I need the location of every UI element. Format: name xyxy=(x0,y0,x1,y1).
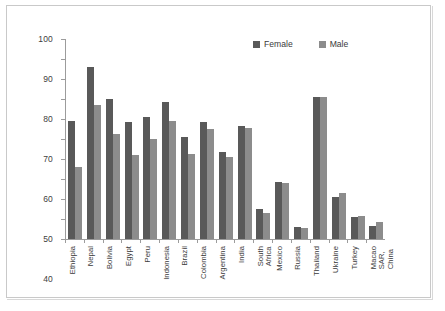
legend-item-female[interactable]: Female xyxy=(253,39,293,49)
x-tick xyxy=(103,239,104,243)
x-tick xyxy=(84,239,85,243)
x-axis-label: Macao SAR, China xyxy=(370,246,395,269)
y-tick: 40 xyxy=(61,159,65,160)
bar-female xyxy=(125,122,132,239)
legend-item-male[interactable]: Male xyxy=(319,39,349,49)
bar-male xyxy=(169,121,176,239)
x-tick xyxy=(347,239,348,243)
legend-label: Male xyxy=(330,39,349,49)
bar-male xyxy=(245,128,252,239)
y-tick: 100 xyxy=(61,39,65,40)
x-tick xyxy=(234,239,235,243)
x-tick xyxy=(272,239,273,243)
x-axis-label: Turkey xyxy=(351,246,359,270)
x-axis-label: Peru xyxy=(144,246,152,262)
bar-male xyxy=(94,105,101,239)
x-tick xyxy=(329,239,330,243)
chart-frame: 0102030405060708090100 EthiopiaNepalBoli… xyxy=(6,5,431,298)
x-axis-label: South Africa xyxy=(257,246,274,266)
x-axis-label: Bolivia xyxy=(106,246,114,269)
bar-male xyxy=(150,139,157,239)
bar-male xyxy=(320,97,327,239)
bar-female xyxy=(219,152,226,239)
x-tick xyxy=(159,239,160,243)
bar-female xyxy=(238,126,245,239)
x-axis-label: Egypt xyxy=(125,246,133,266)
y-tick-label: 60 xyxy=(43,194,53,204)
y-tick-label: 40 xyxy=(43,274,53,284)
bar-male xyxy=(263,213,270,239)
x-tick xyxy=(197,239,198,243)
x-tick xyxy=(216,239,217,243)
x-axis-label: India xyxy=(238,246,246,263)
bar-male xyxy=(132,155,139,239)
bar-female xyxy=(68,121,75,239)
x-axis-label: Argentina xyxy=(219,246,227,279)
y-tick-label: 100 xyxy=(38,34,53,44)
x-tick xyxy=(178,239,179,243)
bar-female xyxy=(256,209,263,239)
bar-male xyxy=(358,216,365,239)
bar-female xyxy=(200,122,207,239)
y-tick: 90 xyxy=(61,59,65,60)
bar-female xyxy=(106,99,113,239)
x-tick xyxy=(310,239,311,243)
x-axis-label: Brazil xyxy=(181,246,189,266)
bar-female xyxy=(275,182,282,239)
x-axis-label: Mexico xyxy=(276,246,284,271)
x-axis-label: Thailand xyxy=(313,246,321,276)
x-axis-label: Ukraine xyxy=(332,246,340,273)
y-axis-line xyxy=(65,39,66,239)
bar-male xyxy=(282,183,289,239)
bar-male xyxy=(188,154,195,239)
chart-legend: FemaleMale xyxy=(253,39,348,49)
bar-male xyxy=(301,228,308,239)
bar-female xyxy=(181,137,188,239)
bar-male xyxy=(339,193,346,239)
x-tick xyxy=(366,239,367,243)
x-axis-label: Russia xyxy=(294,246,302,270)
bar-male xyxy=(75,167,82,239)
x-axis-label: Indonesia xyxy=(163,246,171,280)
bar-male xyxy=(376,222,383,239)
x-tick xyxy=(253,239,254,243)
legend-swatch-icon xyxy=(253,41,260,48)
x-tick xyxy=(121,239,122,243)
x-axis-label: Ethiopia xyxy=(69,246,77,274)
bar-female xyxy=(162,102,169,239)
y-tick: 20 xyxy=(61,199,65,200)
bar-female xyxy=(332,197,339,239)
x-axis-label: Nepal xyxy=(87,246,95,266)
y-tick: 80 xyxy=(61,79,65,80)
x-tick xyxy=(140,239,141,243)
plot-area: 0102030405060708090100 EthiopiaNepalBoli… xyxy=(65,39,385,239)
bar-female xyxy=(87,67,94,239)
bar-female xyxy=(143,117,150,239)
y-tick: 50 xyxy=(61,139,65,140)
y-tick-label: 90 xyxy=(43,74,53,84)
y-tick-label: 80 xyxy=(43,114,53,124)
bar-female xyxy=(294,227,301,239)
y-tick: 10 xyxy=(61,219,65,220)
y-tick-label: 50 xyxy=(43,234,53,244)
x-axis-line xyxy=(65,239,385,240)
x-tick xyxy=(291,239,292,243)
y-tick: 30 xyxy=(61,179,65,180)
bar-male xyxy=(113,134,120,239)
legend-label: Female xyxy=(264,39,293,49)
bar-female xyxy=(369,226,376,239)
bar-male xyxy=(207,129,214,239)
y-tick-label: 70 xyxy=(43,154,53,164)
bar-female xyxy=(351,217,358,239)
y-tick: 60 xyxy=(61,119,65,120)
x-tick xyxy=(65,239,66,243)
y-tick: 70 xyxy=(61,99,65,100)
x-axis-label: Colombia xyxy=(200,246,208,279)
legend-swatch-icon xyxy=(319,41,326,48)
bar-male xyxy=(226,157,233,239)
bar-female xyxy=(313,97,320,239)
